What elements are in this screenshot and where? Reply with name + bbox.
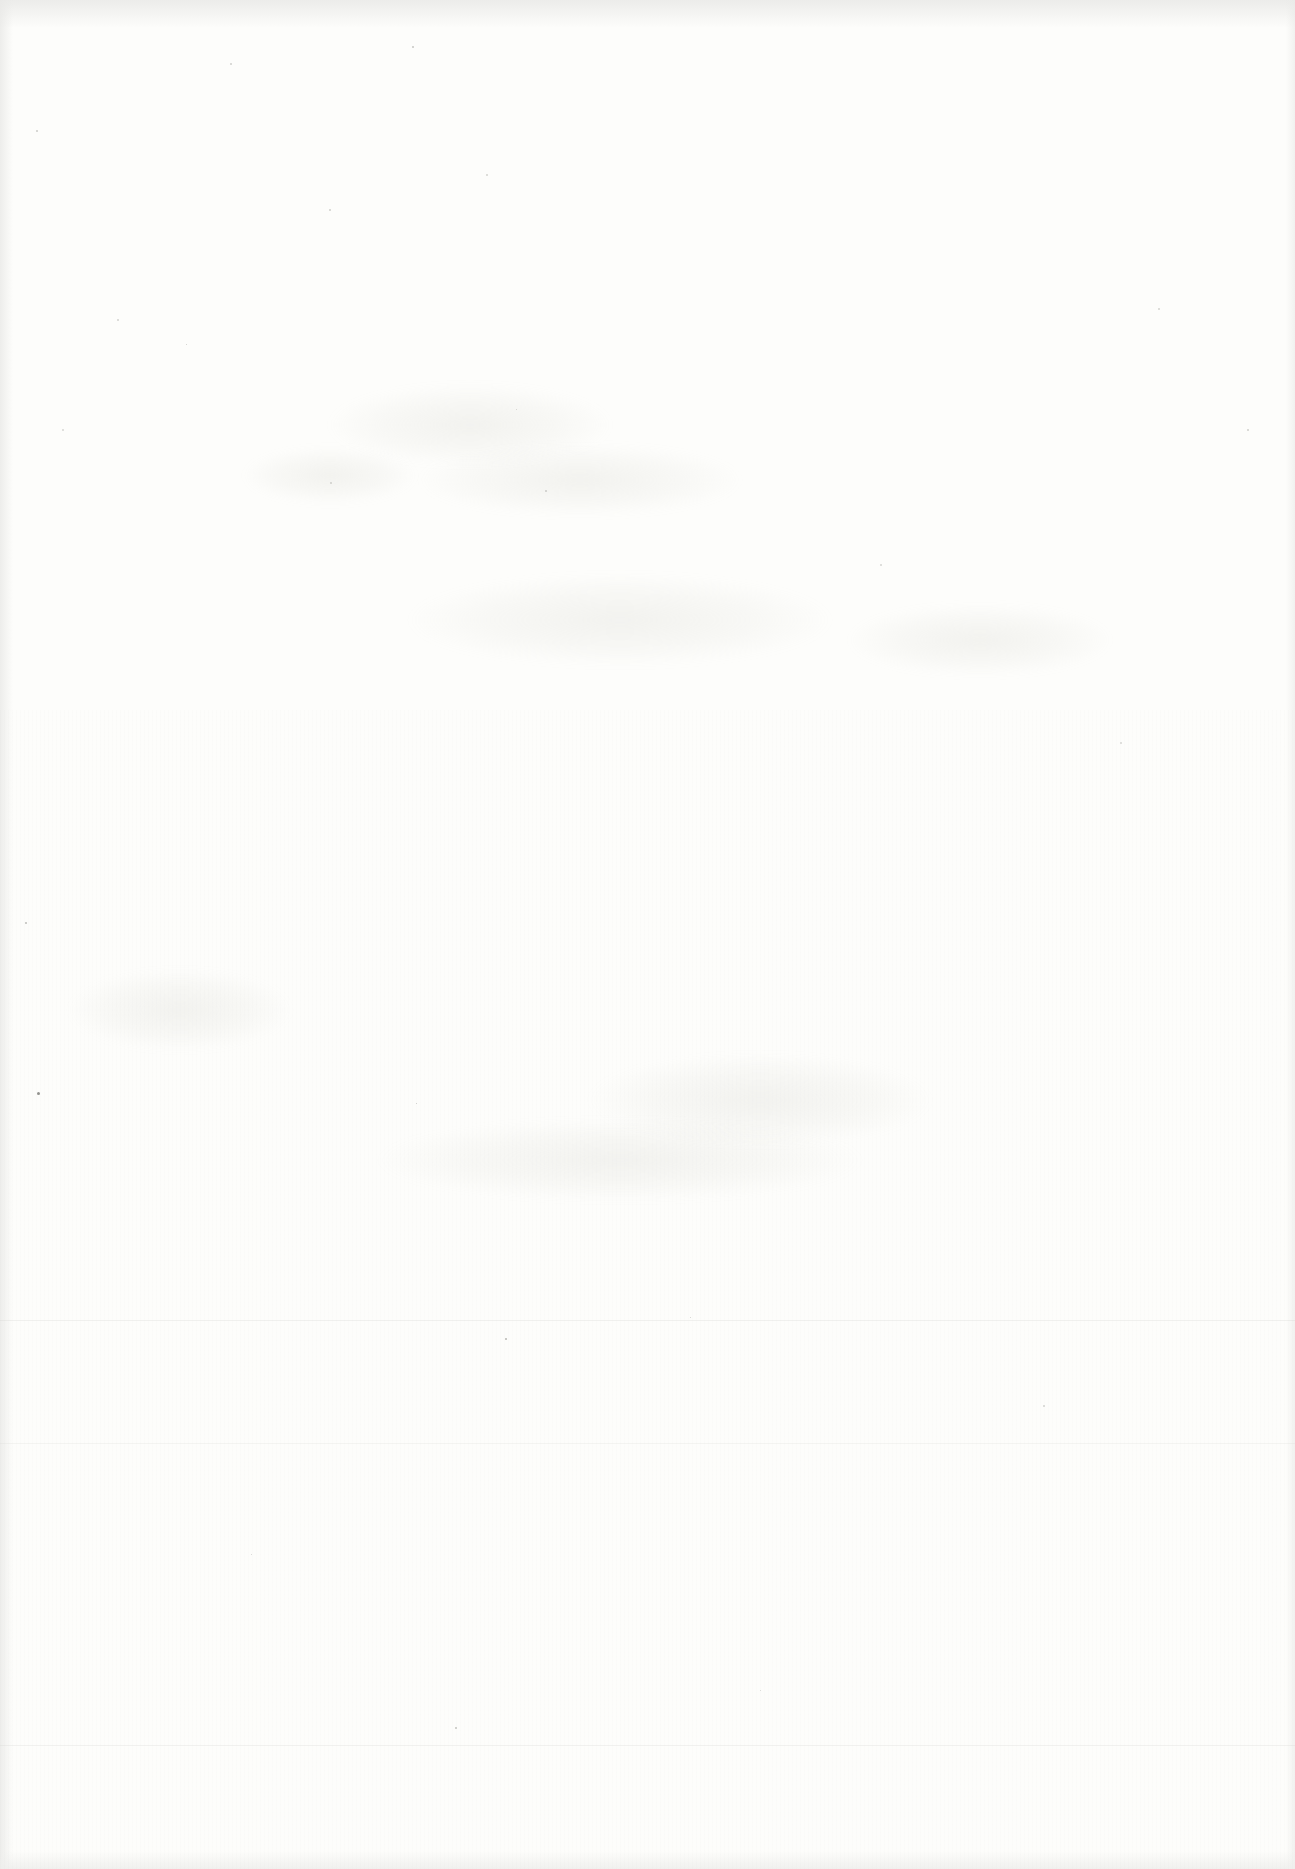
show-through-smudge	[850, 605, 1110, 675]
dust-speck	[690, 1317, 691, 1318]
dust-speck	[1120, 742, 1122, 744]
dust-speck	[1158, 308, 1160, 310]
dust-speck	[37, 1092, 40, 1095]
page-edge-shadow-left	[0, 0, 14, 1869]
dust-speck	[1247, 429, 1249, 431]
show-through-smudge	[590, 1055, 930, 1145]
dust-speck	[25, 922, 27, 924]
dust-speck	[251, 1554, 252, 1555]
page-edge-shadow-bottom	[0, 1849, 1295, 1869]
show-through-smudge	[410, 575, 830, 665]
dust-speck	[186, 344, 187, 345]
dust-speck	[505, 1338, 507, 1340]
dust-speck	[412, 46, 414, 48]
dust-speck	[880, 564, 882, 566]
show-through-smudge	[420, 445, 740, 515]
dust-speck	[486, 174, 488, 176]
show-through-smudge	[330, 385, 610, 465]
dust-speck	[416, 1103, 417, 1104]
crease-line	[0, 1443, 1295, 1444]
show-through-smudge	[380, 1120, 860, 1200]
dust-speck	[62, 429, 64, 431]
dust-speck	[330, 482, 332, 484]
dust-speck	[545, 490, 547, 492]
show-through-smudge	[70, 970, 290, 1050]
scanned-blank-page	[0, 0, 1295, 1869]
dust-speck	[455, 1727, 457, 1729]
crease-line	[0, 1320, 1295, 1321]
dust-speck	[230, 63, 232, 65]
dust-speck	[1043, 1405, 1045, 1407]
crease-line	[0, 1745, 1295, 1746]
page-edge-shadow-right	[1285, 0, 1295, 1869]
dust-speck	[36, 130, 38, 132]
paper-texture	[0, 710, 1295, 1869]
show-through-smudge	[245, 448, 415, 503]
page-edge-shadow-top	[0, 0, 1295, 30]
dust-speck	[329, 209, 331, 211]
dust-speck	[516, 409, 517, 410]
dust-speck	[117, 319, 119, 321]
dust-speck	[760, 1690, 761, 1691]
